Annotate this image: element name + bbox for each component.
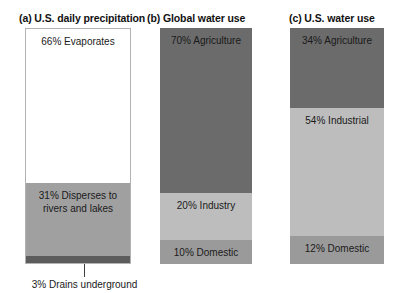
leader-line-drains-underground xyxy=(84,264,85,277)
stacked-bar-a: 66% Evaporates31% Disperses to rivers an… xyxy=(25,28,131,264)
bar-segment-label-a-1: 31% Disperses to rivers and lakes xyxy=(26,189,130,215)
bar-segment-label-b-0: 70% Agriculture xyxy=(160,34,252,47)
stacked-bar-b: 70% Agriculture20% Industry10% Domestic xyxy=(160,28,252,264)
annotation-drains-underground: 3% Drains underground xyxy=(13,278,156,291)
bar-segment-label-c-2: 12% Domestic xyxy=(290,242,384,255)
panel-global-water-use: (b) Global water use 70% Agriculture20% … xyxy=(147,0,267,293)
panel-a-title: (a) U.S. daily precipitation xyxy=(19,12,145,24)
panel-b-title: (b) Global water use xyxy=(147,12,245,24)
bar-segment-label-b-2: 10% Domestic xyxy=(160,246,252,259)
bar-segment-label-c-1: 54% Industrial xyxy=(290,114,384,127)
bar-segment-b-0: 70% Agriculture xyxy=(160,28,252,193)
panel-c-title: (c) U.S. water use xyxy=(289,12,375,24)
bar-segment-c-0: 34% Agriculture xyxy=(290,28,384,108)
bar-segment-a-0: 66% Evaporates xyxy=(26,29,130,183)
stacked-bar-c: 34% Agriculture54% Industrial12% Domesti… xyxy=(290,28,384,264)
bar-segment-c-2: 12% Domestic xyxy=(290,236,384,264)
bar-segment-a-2 xyxy=(26,256,130,263)
bar-segment-label-b-1: 20% Industry xyxy=(160,199,252,212)
bar-segment-b-2: 10% Domestic xyxy=(160,240,252,264)
bar-segment-c-1: 54% Industrial xyxy=(290,108,384,235)
bar-segment-a-1: 31% Disperses to rivers and lakes xyxy=(26,183,130,256)
panel-us-water-use: (c) U.S. water use 34% Agriculture54% In… xyxy=(277,0,396,293)
panel-us-daily-precipitation: (a) U.S. daily precipitation 66% Evapora… xyxy=(13,0,143,293)
bar-segment-label-c-0: 34% Agriculture xyxy=(290,34,384,47)
bar-segment-label-a-0: 66% Evaporates xyxy=(26,35,130,48)
bar-segment-b-1: 20% Industry xyxy=(160,193,252,240)
